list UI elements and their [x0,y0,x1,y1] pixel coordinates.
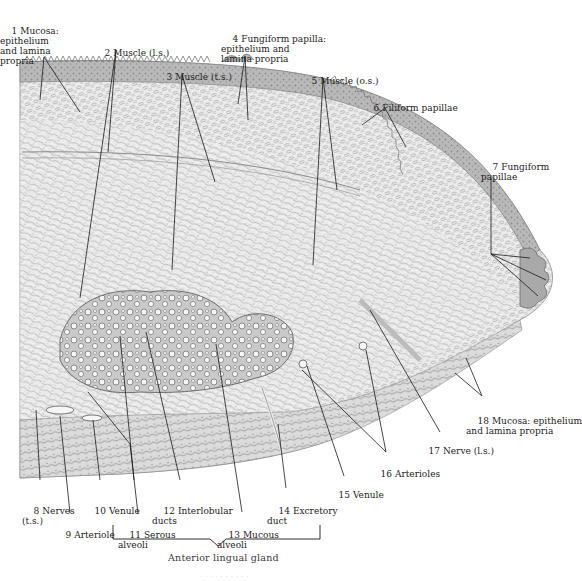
gland-caption: Anterior lingual gland [168,552,279,563]
label-5-muscle-os: 5Muscle (o.s.) [300,66,379,96]
label-7-fungiform-papillae: 7Fungiform papillae [481,152,549,192]
label-1-mucosa: 1Mucosa: epithelium and lamina propria [0,16,59,76]
label-6-filiform-papillae: 6Filiform papillae [362,93,458,123]
label-18-mucosa: 18Mucosa: epithelium and lamina propria [466,406,582,446]
faint-footer-text: · · · · · · · · · · [200,572,248,581]
